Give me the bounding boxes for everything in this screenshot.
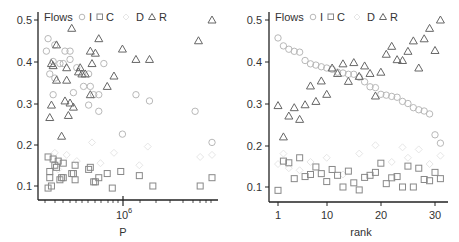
diamond-marker [73, 158, 80, 165]
square-marker [410, 184, 416, 190]
diamond-marker [388, 158, 395, 165]
legend-circle-icon [310, 14, 316, 20]
diamond-marker [426, 161, 433, 168]
y-tick-label: 0.4 [247, 56, 262, 68]
triangle-marker [47, 101, 55, 108]
circle-marker [192, 108, 198, 114]
triangle-marker [344, 77, 352, 84]
triangle-marker [53, 76, 61, 83]
triangle-marker [323, 90, 331, 97]
triangle-marker [388, 42, 396, 49]
square-marker [432, 169, 438, 175]
circle-marker [146, 98, 152, 104]
square-marker [297, 155, 303, 161]
triangle-marker [88, 60, 96, 67]
triangle-marker [377, 68, 385, 75]
square-marker [400, 184, 406, 190]
diamond-marker [399, 144, 406, 151]
right-legend: Flows I C D R [275, 11, 398, 23]
diamond-marker [97, 160, 104, 167]
circle-marker [96, 108, 102, 114]
triangle-marker [436, 16, 444, 23]
square-marker [47, 168, 53, 174]
figure: 0.5 0.4 0.3 0.2 0.1 10 6 P Flows I C D R [0, 0, 459, 242]
y-tick-label: 0.3 [17, 98, 32, 110]
triangle-marker [58, 132, 66, 139]
y-tick-label: 0.2 [247, 140, 262, 152]
x-tick-label: 30 [429, 209, 441, 221]
diamond-marker [372, 142, 379, 149]
diamond-marker [51, 149, 58, 156]
triangle-marker [339, 60, 347, 67]
legend-square-icon [328, 14, 334, 20]
diamond-marker [63, 151, 70, 158]
y-tick-label: 0.5 [17, 14, 32, 26]
triangle-marker [285, 112, 293, 119]
circle-marker [119, 131, 125, 137]
square-marker [291, 176, 297, 182]
square-marker [329, 166, 335, 172]
triangle-marker [296, 115, 304, 122]
x-tick-label-exponent: 6 [128, 206, 132, 215]
square-marker [405, 163, 411, 169]
square-marker [70, 171, 76, 177]
square-marker [209, 175, 215, 181]
square-marker [356, 187, 362, 193]
triangle-marker [361, 62, 369, 69]
legend-label-i: I [89, 11, 92, 23]
x-axis-label: P [119, 226, 126, 238]
legend-label-i: I [320, 11, 323, 23]
triangle-marker [208, 16, 216, 23]
triangle-marker [317, 77, 325, 84]
triangle-marker [350, 59, 358, 66]
left-data-points [43, 16, 216, 191]
right-data-points [274, 16, 444, 193]
left-panel-plot: 0.5 0.4 0.3 0.2 0.1 10 6 P Flows I C D R [17, 11, 218, 238]
square-marker [345, 168, 351, 174]
circle-marker [67, 56, 73, 62]
circle-marker [426, 111, 432, 117]
diamond-marker [356, 150, 363, 157]
diamond-marker [89, 139, 96, 146]
diamond-marker [144, 143, 151, 150]
square-marker [150, 183, 156, 189]
triangle-marker [382, 50, 390, 57]
x-tick-label-base: 10 [116, 209, 128, 221]
y-tick-label: 0.2 [17, 139, 32, 151]
diamond-marker [110, 149, 117, 156]
triangle-marker [366, 69, 374, 76]
triangle-marker [306, 82, 314, 89]
square-marker [318, 171, 324, 177]
legend-label-c: C [337, 11, 345, 23]
legend-label-d: D [136, 11, 144, 23]
legend-triangle-icon [149, 14, 156, 20]
square-marker [86, 166, 92, 172]
right-panel-plot: 0.5 0.4 0.3 0.2 0.1 1 10 20 30 rank Flow… [247, 11, 448, 238]
square-marker [324, 179, 330, 185]
circle-marker [85, 102, 91, 108]
diamond-marker [415, 146, 422, 153]
square-marker [416, 165, 422, 171]
square-marker [275, 187, 281, 193]
circle-marker [50, 92, 56, 98]
circle-marker [87, 83, 93, 89]
diamond-marker [136, 162, 143, 169]
triangle-marker [415, 64, 423, 71]
triangle-marker [103, 82, 111, 89]
triangle-marker [46, 114, 54, 121]
triangle-marker [290, 104, 298, 111]
circle-marker [275, 35, 281, 41]
triangle-marker [95, 35, 103, 42]
triangle-marker [312, 97, 320, 104]
x-tick-label: 20 [375, 209, 387, 221]
x-axis-label: rank [350, 226, 372, 238]
square-marker [87, 164, 93, 170]
y-tick-label: 0.5 [247, 14, 262, 26]
square-marker [136, 173, 142, 179]
triangle-marker [279, 133, 287, 140]
legend-diamond-icon [123, 14, 129, 20]
square-marker [197, 183, 203, 189]
legend-triangle-icon [380, 14, 387, 20]
triangle-marker [301, 101, 309, 108]
y-tick-label: 0.3 [247, 98, 262, 110]
